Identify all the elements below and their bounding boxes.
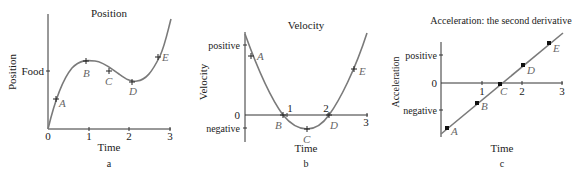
panel-a-point-E: E bbox=[161, 51, 169, 63]
panel-a-xtick-1: 1 bbox=[86, 130, 92, 142]
panel-a-xtick-0: 0 bbox=[45, 130, 51, 142]
panel-c-point-E: E bbox=[552, 42, 560, 54]
panel-a-ylabel: Position bbox=[6, 53, 18, 90]
panel-a-xtick-3: 3 bbox=[167, 130, 173, 142]
panel-c-point-A: A bbox=[450, 125, 458, 137]
panel-b-point-D: D bbox=[329, 119, 338, 131]
panel-c-ytick-zero: 0 bbox=[432, 77, 438, 89]
panel-a-position: Position 0 1 2 3 Food Position Time a A … bbox=[6, 7, 173, 169]
panel-c-caption: c bbox=[500, 158, 505, 169]
panel-b-ytick-negative: negative bbox=[206, 123, 240, 134]
panel-b-velocity: Velocity positive 0 negative 1 2 3 Veloc… bbox=[197, 19, 369, 169]
panel-a-xlabel: Time bbox=[98, 141, 121, 153]
panel-a-point-D: D bbox=[128, 85, 137, 97]
panel-c-xtick-2: 2 bbox=[519, 85, 525, 97]
figure: Position 0 1 2 3 Food Position Time a A … bbox=[0, 0, 586, 181]
panel-c-point-C: C bbox=[500, 85, 508, 97]
panel-b-xtick-2: 2 bbox=[323, 102, 329, 114]
panel-c-ylabel: Acceleration bbox=[390, 56, 401, 107]
panel-c-xtick-3: 3 bbox=[559, 85, 565, 97]
panel-b-title: Velocity bbox=[288, 19, 325, 31]
panel-b-point-B: B bbox=[275, 119, 282, 131]
panel-a-ytick-food: Food bbox=[21, 65, 44, 77]
panel-c-ytick-negative: negative bbox=[403, 105, 437, 116]
panel-a-xtick-2: 2 bbox=[126, 130, 132, 142]
panel-b-ylabel: Velocity bbox=[197, 63, 209, 100]
panel-c-title: Acceleration: the second derivative bbox=[430, 15, 572, 26]
panel-c-acceleration: Acceleration: the second derivative posi… bbox=[390, 15, 572, 169]
panel-b-ytick-zero: 0 bbox=[235, 109, 241, 121]
panel-b-point-C: C bbox=[303, 133, 311, 145]
panel-c-point-D: D bbox=[526, 64, 535, 76]
panel-b-xtick-3: 3 bbox=[363, 116, 369, 128]
panel-a-point-C: C bbox=[105, 75, 113, 87]
panel-b-caption: b bbox=[304, 158, 309, 169]
panel-b-xtick-1: 1 bbox=[287, 102, 293, 114]
panel-c-ytick-positive: positive bbox=[405, 50, 437, 61]
panel-a-caption: a bbox=[107, 158, 112, 169]
panel-b-ytick-positive: positive bbox=[208, 40, 240, 51]
panel-a-title: Position bbox=[91, 7, 128, 19]
panel-a-point-B: B bbox=[83, 67, 90, 79]
panel-c-xlabel: Time bbox=[491, 142, 514, 154]
panel-c-xtick-1: 1 bbox=[479, 85, 485, 97]
panel-b-point-A: A bbox=[256, 50, 264, 62]
panel-a-point-A: A bbox=[58, 97, 66, 109]
panel-c-point-B: B bbox=[481, 100, 488, 112]
panel-b-point-E: E bbox=[358, 65, 366, 77]
